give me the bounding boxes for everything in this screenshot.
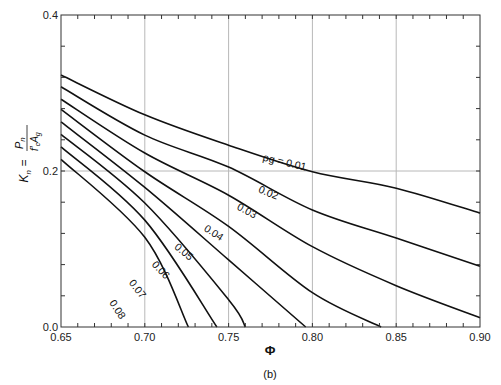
curve-label: 0.05 bbox=[173, 240, 196, 262]
y-tick-label: 0.4 bbox=[43, 9, 58, 21]
x-tick-label: 0.85 bbox=[385, 331, 406, 343]
x-tick-label: 0.90 bbox=[469, 331, 490, 343]
y-tick-label: 0.2 bbox=[43, 165, 58, 177]
curve-label: 0.06 bbox=[150, 258, 173, 281]
x-tick-label: 0.70 bbox=[134, 331, 155, 343]
curve-label: ρg = 0.01 bbox=[262, 151, 308, 173]
curve-labels: ρg = 0.010.020.030.040.050.060.070.08 bbox=[107, 151, 307, 321]
curve-0.07 bbox=[61, 147, 217, 327]
svg-text:Pn: Pn bbox=[13, 137, 27, 149]
figure-caption: (b) bbox=[263, 368, 276, 380]
curve-label: 0.03 bbox=[235, 200, 259, 220]
curve-label: 0.07 bbox=[127, 277, 149, 301]
y-tick-label: 0.0 bbox=[43, 321, 58, 333]
x-tick-label: 0.75 bbox=[218, 331, 239, 343]
svg-text:f′cAg: f′cAg bbox=[29, 132, 42, 151]
y-axis-title: Kn = Pn f′cAg bbox=[13, 125, 42, 182]
curves bbox=[61, 75, 480, 327]
x-axis-title: Φ bbox=[265, 343, 276, 358]
curve-label: 0.02 bbox=[257, 183, 281, 202]
chart: ρg = 0.010.020.030.040.050.060.070.08 0.… bbox=[0, 0, 501, 385]
x-tick-label: 0.80 bbox=[302, 331, 323, 343]
curve-0.03 bbox=[61, 99, 480, 317]
curve-label: 0.08 bbox=[107, 297, 128, 321]
curve-0.02 bbox=[61, 87, 480, 266]
svg-text:Kn =: Kn = bbox=[17, 160, 33, 183]
